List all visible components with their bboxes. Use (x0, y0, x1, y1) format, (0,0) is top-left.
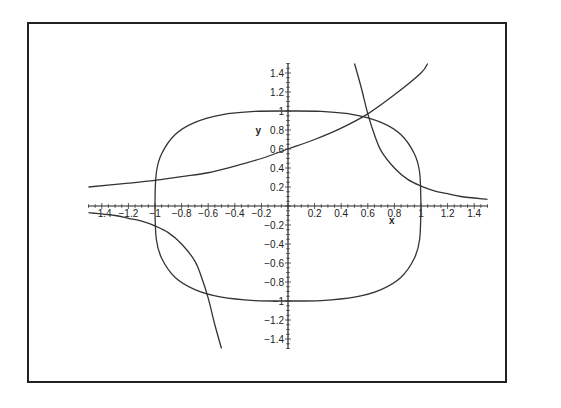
x-tick-label: −0.4 (225, 208, 245, 219)
curve-4 (89, 213, 222, 349)
x-tick-label: 0.6 (361, 208, 375, 219)
y-tick-label: −1.2 (264, 315, 284, 326)
x-tick-label: −0.8 (172, 208, 192, 219)
y-tick-label: 0.8 (270, 125, 284, 136)
ticks (89, 64, 488, 349)
y-tick-label: −1.4 (264, 334, 284, 345)
x-axis-label: x (389, 215, 395, 226)
y-tick-label: −0.6 (264, 258, 284, 269)
y-axis-label: y (255, 125, 261, 136)
x-tick-label: −0.2 (252, 208, 272, 219)
y-tick-label: 1.4 (270, 68, 284, 79)
x-tick-label: 1.4 (467, 208, 481, 219)
y-tick-label: −0.4 (264, 239, 284, 250)
x-tick-label: 0.2 (308, 208, 322, 219)
y-tick-label: 0.4 (270, 163, 284, 174)
y-tick-label: 0.2 (270, 182, 284, 193)
x-tick-label: 1.2 (441, 208, 455, 219)
x-tick-label: 0.4 (334, 208, 348, 219)
y-tick-label: −0.2 (264, 220, 284, 231)
chart-plot: −1.4−1.2−1−0.8−0.6−0.4−0.20.20.40.60.811… (0, 0, 561, 408)
y-tick-label: −0.8 (264, 277, 284, 288)
x-tick-label: −0.6 (198, 208, 218, 219)
curve-3 (355, 64, 488, 200)
y-tick-label: 1.2 (270, 87, 284, 98)
